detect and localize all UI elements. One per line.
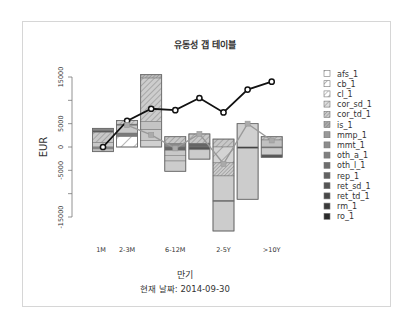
legend-label: mmp_1 xyxy=(337,131,367,140)
y-axis-label: EUR xyxy=(38,137,49,158)
bar-segment-hatch xyxy=(165,137,186,144)
legend-swatch xyxy=(324,152,330,158)
legend-swatch xyxy=(324,183,330,189)
legend-swatch xyxy=(324,193,330,199)
cumulative-gap-point xyxy=(245,87,250,92)
x-tick-label: 2-3M xyxy=(119,246,135,254)
bar-segment xyxy=(117,133,138,136)
bar-segment-hatch xyxy=(213,139,234,147)
current-date-caption: 현재 날짜: 2014-09-30 xyxy=(140,284,230,294)
legend-item: oth_a_1 xyxy=(324,151,368,160)
legend-item: rm_1 xyxy=(324,202,357,211)
bar-stack xyxy=(165,137,186,172)
bar-segment xyxy=(141,140,162,147)
legend-label: cor_td_1 xyxy=(337,110,371,119)
net-gap-point xyxy=(173,146,178,151)
cumulative-gap-point xyxy=(149,106,154,111)
net-gap-point xyxy=(197,131,202,136)
legend-item: oth_l_1 xyxy=(324,161,365,170)
legend-item: ro_1 xyxy=(324,212,354,221)
cumulative-gap-point xyxy=(197,95,202,100)
legend-label: oth_a_1 xyxy=(337,151,368,160)
bar-segment xyxy=(141,121,162,129)
bar-segment xyxy=(261,148,282,155)
legend-swatch-hatch xyxy=(324,101,330,107)
bar-segment xyxy=(165,161,186,171)
legend-label: mmt_1 xyxy=(337,141,365,150)
legend-swatch xyxy=(324,132,330,138)
y-tick-label: -15000 xyxy=(57,205,65,228)
legend-label: ret_td_1 xyxy=(337,192,369,201)
net-gap-point xyxy=(125,123,130,128)
bars-group xyxy=(93,75,283,231)
x-tick-label: 6-12M xyxy=(165,246,185,254)
legend-label: ro_1 xyxy=(337,212,354,221)
y-axis: 1500050000-5000-15000 xyxy=(57,67,72,229)
y-tick-label: 15000 xyxy=(57,67,65,88)
bar-segment xyxy=(93,130,114,132)
net-gap-point xyxy=(269,138,274,143)
y-tick-label: 5000 xyxy=(57,115,65,132)
net-gap-point xyxy=(149,132,154,137)
bar-segment xyxy=(165,155,186,161)
legend-item: cl_1 xyxy=(324,90,353,99)
legend-item: mmp_1 xyxy=(324,131,367,140)
y-tick-label: 0 xyxy=(57,145,65,149)
bar-segment-hatch xyxy=(141,78,162,121)
legend-label: oth_l_1 xyxy=(337,161,365,170)
legend-label: is_1 xyxy=(337,121,352,130)
legend-item: ret_sd_1 xyxy=(324,182,371,191)
legend-item: mmt_1 xyxy=(324,141,365,150)
legend-label: cor_sd_1 xyxy=(337,100,372,109)
legend-label: cl_1 xyxy=(337,90,353,99)
bar-segment xyxy=(213,202,234,231)
legend-swatch xyxy=(324,173,330,179)
cumulative-gap-point xyxy=(100,144,105,149)
net-gap-point xyxy=(245,121,250,126)
y-tick-label: -5000 xyxy=(57,161,65,180)
legend-swatch xyxy=(324,162,330,168)
legend-item: afs_1 xyxy=(324,70,358,79)
x-tick-label: >10Y xyxy=(263,246,281,254)
legend-label: rep_1 xyxy=(337,172,359,181)
bar-segment xyxy=(189,147,210,150)
bar-segment-hatch xyxy=(93,132,114,142)
bar-segment-hatch xyxy=(117,136,138,147)
cumulative-gap-point xyxy=(173,108,178,113)
chart-title: 유동성 갭 테이블 xyxy=(174,39,236,50)
cumulative-gap-point xyxy=(221,110,226,115)
legend-swatch-hatch xyxy=(324,122,330,128)
bar-segment xyxy=(213,176,234,201)
legend-label: rm_1 xyxy=(337,202,357,211)
legend: afs_1cb_1cl_1cor_sd_1cor_td_1is_1mmp_1mm… xyxy=(324,70,372,222)
legend-swatch xyxy=(324,203,330,209)
x-tick-label: 1M xyxy=(96,246,106,254)
cumulative-gap-point xyxy=(269,79,274,84)
legend-label: ret_sd_1 xyxy=(337,182,371,191)
net-gap-point xyxy=(221,161,226,166)
legend-label: afs_1 xyxy=(337,70,358,79)
x-tick-label: 2-5Y xyxy=(216,246,231,254)
legend-label: cb_1 xyxy=(337,80,356,89)
legend-swatch-hatch xyxy=(324,71,330,77)
legend-swatch-hatch xyxy=(324,81,330,87)
legend-swatch-hatch xyxy=(324,111,330,117)
legend-swatch-hatch xyxy=(324,91,330,97)
legend-swatch xyxy=(324,213,330,219)
legend-item: cor_sd_1 xyxy=(324,100,372,109)
bar-segment xyxy=(189,150,210,159)
legend-swatch xyxy=(324,142,330,148)
legend-item: cor_td_1 xyxy=(324,110,371,119)
legend-item: cb_1 xyxy=(324,80,356,89)
bar-segment-hatch xyxy=(141,75,162,78)
legend-item: ret_td_1 xyxy=(324,192,369,201)
legend-item: is_1 xyxy=(324,121,352,130)
legend-item: rep_1 xyxy=(324,172,359,181)
x-axis-label: 만기 xyxy=(177,270,193,280)
x-axis-labels: 1M2-3M6-12M2-5Y>10Y xyxy=(96,246,280,254)
liquidity-gap-chart: 유동성 갭 테이블 EUR 1500050000-5000-15000 1M2-… xyxy=(0,0,410,326)
bar-segment xyxy=(237,148,258,199)
